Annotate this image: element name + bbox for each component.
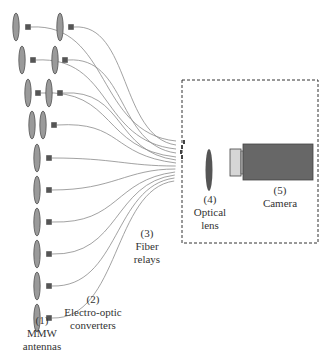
antenna-element: [19, 46, 25, 74]
electro-optic-converters: [25, 24, 74, 321]
converter-square: [46, 283, 52, 289]
label-converters-number: (2): [58, 293, 128, 306]
label-fibers-line1: Fiber: [127, 240, 167, 253]
converter-square: [57, 90, 63, 96]
converter-square: [68, 24, 74, 30]
antenna-element: [57, 13, 63, 41]
antenna-element: [13, 13, 19, 41]
antenna-element: [46, 79, 52, 107]
camera-body: [243, 144, 313, 180]
camera-lens-adapter: [230, 149, 241, 176]
optical-lens: [206, 149, 213, 191]
label-converters-line2: converters: [58, 319, 128, 332]
mmw-antenna-array: [13, 13, 63, 332]
label-lens-number: (4): [190, 193, 230, 206]
converter-square: [46, 155, 52, 161]
antenna-element: [29, 111, 35, 139]
antenna-element: [34, 144, 40, 172]
antenna-element: [25, 79, 31, 107]
label-camera-number: (5): [255, 184, 305, 197]
converter-square: [30, 57, 36, 63]
label-camera-line1: Camera: [255, 197, 305, 210]
converter-square: [62, 57, 68, 63]
label-antennas-line2: antennas: [12, 340, 72, 353]
label-lens: (4) Optical lens: [190, 193, 230, 232]
converter-square: [46, 187, 52, 193]
label-converters: (2) Electro-optic converters: [58, 293, 128, 332]
antenna-element: [34, 176, 40, 204]
converter-square: [51, 122, 57, 128]
converter-square: [46, 219, 52, 225]
label-fibers: (3) Fiber relays: [127, 227, 167, 266]
antenna-element: [34, 272, 40, 300]
label-camera: (5) Camera: [255, 184, 305, 210]
label-fibers-line2: relays: [127, 253, 167, 266]
fiber-tip: [181, 155, 183, 159]
fiber-tip: [180, 150, 182, 154]
label-lens-line2: lens: [190, 219, 230, 232]
converter-square: [46, 251, 52, 257]
antenna-element: [40, 111, 46, 139]
antenna-element: [52, 46, 58, 74]
antenna-element: [34, 208, 40, 236]
label-lens-line1: Optical: [190, 206, 230, 219]
fiber-tip: [183, 140, 185, 144]
label-converters-line1: Electro-optic: [58, 306, 128, 319]
fiber-line: [63, 93, 176, 160]
antenna-element: [34, 240, 40, 268]
imaging-system-diagram: [0, 0, 332, 364]
fiber-line: [57, 125, 176, 163]
converter-square: [25, 24, 31, 30]
fiber-tip: [181, 145, 183, 149]
label-fibers-number: (3): [127, 227, 167, 240]
converter-square: [35, 90, 41, 96]
